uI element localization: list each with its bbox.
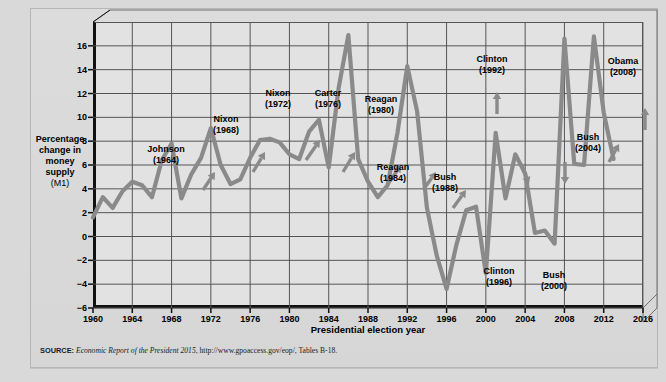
annotation-year: (1972) bbox=[265, 99, 291, 110]
source-divider bbox=[30, 368, 658, 369]
annotation-year: (1988) bbox=[432, 183, 458, 194]
annotation-president: Reagan bbox=[365, 94, 398, 105]
x-tick-label: 2008 bbox=[554, 314, 574, 324]
source-note: SOURCE: Economic Report of the President… bbox=[40, 346, 646, 355]
x-tick-label: 1996 bbox=[437, 314, 457, 324]
annotation-year: (2008) bbox=[608, 67, 639, 78]
y-tick-label: −2 bbox=[77, 255, 87, 265]
x-tick-label: 1976 bbox=[240, 314, 260, 324]
x-tick-label: 1980 bbox=[279, 314, 299, 324]
annotation-johnson-1964: Johnson(1964) bbox=[147, 144, 185, 165]
y-axis-title-line2: change in bbox=[30, 145, 90, 156]
annotation-president: Obama bbox=[608, 56, 639, 67]
x-tick-label: 2012 bbox=[594, 314, 614, 324]
y-axis-title-line4: supply bbox=[30, 167, 90, 178]
annotation-president: Bush bbox=[432, 172, 458, 183]
annotation-president: Clinton bbox=[484, 266, 515, 277]
annotation-bush-2000: Bush(2000) bbox=[541, 270, 567, 291]
annotation-president: Clinton bbox=[477, 54, 508, 65]
annotation-year: (1980) bbox=[365, 105, 398, 116]
source-title: Economic Report of the President 2015 bbox=[76, 346, 196, 355]
annotation-president: Carter bbox=[315, 88, 342, 99]
annotation-president: Johnson bbox=[147, 144, 185, 155]
y-tick-label: 16 bbox=[77, 41, 87, 51]
y-tick-label: 12 bbox=[77, 89, 87, 99]
annotation-clinton-1992: Clinton(1992) bbox=[477, 54, 508, 75]
x-tick-label: 1972 bbox=[201, 314, 221, 324]
plot-wrapper: 1614121086420−2−4−6 19601964196819721976… bbox=[93, 22, 643, 308]
source-rest: , http://www.gpoaccess.gov/eop/, Tables … bbox=[196, 346, 337, 355]
chart-area: 1614121086420−2−4−6 19601964196819721976… bbox=[30, 8, 658, 338]
annotation-obama-2008: Obama(2008) bbox=[608, 56, 639, 77]
annotation-carter-1976: Carter(1976) bbox=[315, 88, 342, 109]
annotation-president: Reagan bbox=[377, 162, 410, 173]
annotation-year: (2004) bbox=[575, 143, 601, 154]
annotation-president: Bush bbox=[575, 132, 601, 143]
figure-panel: 1614121086420−2−4−6 19601964196819721976… bbox=[0, 0, 666, 382]
annotation-year: (1976) bbox=[315, 99, 342, 110]
annotation-clinton-1996: Clinton(1996) bbox=[484, 266, 515, 287]
annotation-president: Bush bbox=[541, 270, 567, 281]
x-tick-label: 1964 bbox=[122, 314, 142, 324]
y-tick-label: −6 bbox=[77, 303, 87, 313]
annotation-year: (1996) bbox=[484, 277, 515, 288]
y-tick-label: 14 bbox=[77, 65, 87, 75]
annotation-president: Nixon bbox=[213, 114, 239, 125]
x-tick-label: 1992 bbox=[397, 314, 417, 324]
annotation-reagan-1980: Reagan(1980) bbox=[365, 94, 398, 115]
x-tick-label: 1984 bbox=[319, 314, 339, 324]
annotation-bush-1988: Bush(1988) bbox=[432, 172, 458, 193]
y-tick-label: 10 bbox=[77, 112, 87, 122]
y-tick-label: 2 bbox=[82, 208, 87, 218]
annotation-year: (2000) bbox=[541, 281, 567, 292]
annotation-arrows bbox=[93, 22, 643, 308]
annotation-year: (1984) bbox=[377, 173, 410, 184]
source-label: SOURCE: bbox=[40, 346, 74, 355]
x-tick-label: 2000 bbox=[476, 314, 496, 324]
y-tick-label: −4 bbox=[77, 279, 87, 289]
x-tick-label: 1960 bbox=[83, 314, 103, 324]
x-tick-label: 2016 bbox=[633, 314, 653, 324]
y-axis-title-line1: Percentage bbox=[30, 134, 90, 145]
x-tick-label: 1968 bbox=[162, 314, 182, 324]
y-tick-label: 0 bbox=[82, 232, 87, 242]
y-axis-title-line3: money bbox=[30, 156, 90, 167]
y-axis-title-line5: (M1) bbox=[30, 178, 90, 189]
annotation-bush-2004: Bush(2004) bbox=[575, 132, 601, 153]
y-axis-title: Percentage change in money supply (M1) bbox=[30, 134, 90, 189]
annotation-reagan-1984: Reagan(1984) bbox=[377, 162, 410, 183]
x-tick-label: 2004 bbox=[515, 314, 535, 324]
annotation-president: Nixon bbox=[265, 88, 291, 99]
annotation-nixon-1972: Nixon(1972) bbox=[265, 88, 291, 109]
annotation-year: (1992) bbox=[477, 65, 508, 76]
x-tick-label: 1988 bbox=[358, 314, 378, 324]
annotation-nixon-1968: Nixon(1968) bbox=[213, 114, 239, 135]
annotation-year: (1964) bbox=[147, 155, 185, 166]
annotation-year: (1968) bbox=[213, 125, 239, 136]
x-axis-title: Presidential election year bbox=[93, 324, 643, 335]
